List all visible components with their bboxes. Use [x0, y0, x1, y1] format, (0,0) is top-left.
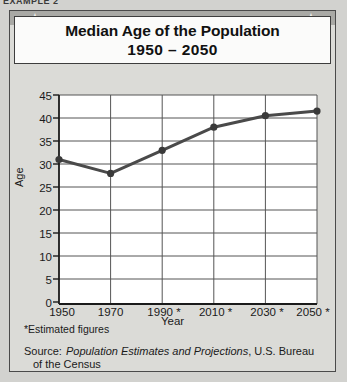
chart-title-plate: Median Age of the Population 1950 – 2050 — [14, 16, 331, 64]
scan-caption: EXAMPLE 2 — [3, 0, 93, 6]
footnote-estimated: *Estimated figures — [24, 323, 325, 335]
chart-title-primary: Median Age of the Population — [65, 22, 279, 40]
figure-footnotes: *Estimated figures Source:Population Est… — [24, 323, 325, 371]
plot-background — [59, 95, 317, 304]
chart-title-secondary: 1950 – 2050 — [127, 41, 218, 59]
data-point-1970 — [107, 170, 114, 177]
data-point-1990 — [159, 147, 166, 154]
source-label: Source: — [24, 345, 62, 357]
chart-svg — [10, 69, 337, 319]
scanned-page: EXAMPLE 2 ★ ★ Median Age of the Populati… — [0, 0, 347, 382]
data-point-2010 — [210, 124, 217, 131]
data-point-2030 — [262, 112, 269, 119]
data-point-1950 — [55, 156, 62, 163]
data-point-2050 — [313, 108, 320, 115]
chart-plot-region: Age 45 40 35 30 25 20 15 10 5 0 — [10, 69, 335, 319]
figure-container: ★ ★ Median Age of the Population 1950 – … — [9, 10, 336, 372]
source-publication-title: Population Estimates and Projections — [66, 345, 248, 357]
footnote-source: Source:Population Estimates and Projecti… — [24, 345, 325, 371]
